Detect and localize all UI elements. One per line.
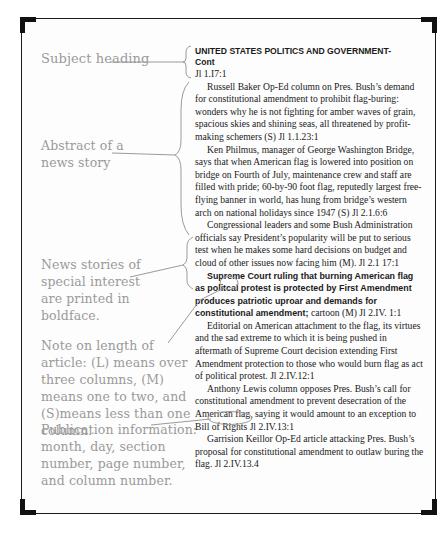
label-subject-heading: Subject heading	[41, 50, 149, 67]
index-entry: Ken Philmus, manager of George Washingto…	[195, 144, 425, 220]
index-entry: Anthony Lewis column opposes Pres. Bush’…	[195, 383, 425, 433]
index-entry-boldface: Supreme Court ruling that burning Americ…	[195, 270, 425, 320]
index-entry: Garrision Keillor Op-Ed article attackin…	[195, 433, 425, 471]
boldface-entry-citation: cartoon (M) Jl 2.IV. 1:1	[311, 307, 401, 318]
index-entry: Editorial on American attachment to the …	[195, 320, 425, 383]
label-boldface-note: News stories of special interest are pri…	[41, 256, 161, 324]
subject-heading-line2: Cont	[195, 57, 215, 67]
corner-mark-top-right	[432, 17, 437, 33]
index-entry: Congressional leaders and some Bush Admi…	[195, 219, 425, 269]
corner-mark-bottom-right	[432, 499, 437, 515]
corner-mark-top-left	[20, 17, 25, 33]
label-abstract: Abstract of a news story	[41, 137, 151, 171]
corner-mark-bottom-left	[20, 499, 25, 515]
index-entries: UNITED STATES POLITICS AND GOVERNMENT- C…	[195, 46, 425, 471]
index-entry: Russell Baker Op-Ed column on Pres. Bush…	[195, 81, 425, 144]
subject-heading-line1: UNITED STATES POLITICS AND GOVERNMENT-	[195, 46, 391, 56]
label-publication-info: Publication information: month, day, sec…	[41, 421, 201, 489]
subject-heading-ref: Jl 1.I7:1	[195, 68, 425, 81]
subject-heading: UNITED STATES POLITICS AND GOVERNMENT- C…	[195, 46, 425, 68]
